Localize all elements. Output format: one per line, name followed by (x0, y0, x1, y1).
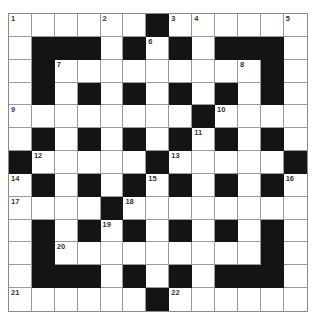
grid-cell[interactable]: 18 (123, 197, 146, 220)
grid-cell[interactable] (9, 83, 32, 106)
grid-cell[interactable] (146, 128, 169, 151)
grid-cell[interactable] (32, 105, 55, 128)
grid-cell[interactable]: 21 (9, 288, 32, 311)
grid-cell[interactable]: 13 (169, 151, 192, 174)
grid-cell[interactable]: 8 (238, 60, 261, 83)
grid-cell[interactable] (238, 83, 261, 106)
grid-cell[interactable] (146, 220, 169, 243)
grid-cell[interactable]: 17 (9, 197, 32, 220)
grid-cell[interactable] (215, 151, 238, 174)
grid-cell[interactable] (169, 242, 192, 265)
grid-cell[interactable] (123, 60, 146, 83)
grid-cell[interactable] (101, 151, 124, 174)
grid-cell[interactable] (101, 242, 124, 265)
grid-cell[interactable]: 19 (101, 220, 124, 243)
grid-cell[interactable]: 16 (284, 174, 307, 197)
grid-cell[interactable]: 1 (9, 14, 32, 37)
grid-cell[interactable] (9, 265, 32, 288)
grid-cell[interactable] (192, 197, 215, 220)
grid-cell[interactable] (55, 288, 78, 311)
grid-cell[interactable] (78, 288, 101, 311)
grid-cell[interactable] (101, 105, 124, 128)
grid-cell[interactable] (101, 60, 124, 83)
grid-cell[interactable] (123, 288, 146, 311)
grid-cell[interactable] (32, 288, 55, 311)
grid-cell[interactable] (55, 14, 78, 37)
grid-cell[interactable]: 4 (192, 14, 215, 37)
grid-cell[interactable] (284, 220, 307, 243)
grid-cell[interactable] (261, 14, 284, 37)
grid-cell[interactable] (123, 151, 146, 174)
grid-cell[interactable]: 14 (9, 174, 32, 197)
grid-cell[interactable] (169, 197, 192, 220)
grid-cell[interactable] (261, 288, 284, 311)
grid-cell[interactable]: 3 (169, 14, 192, 37)
grid-cell[interactable] (169, 105, 192, 128)
grid-cell[interactable] (192, 174, 215, 197)
grid-cell[interactable] (284, 128, 307, 151)
grid-cell[interactable] (101, 265, 124, 288)
grid-cell[interactable] (101, 174, 124, 197)
grid-cell[interactable] (32, 14, 55, 37)
grid-cell[interactable] (192, 220, 215, 243)
grid-cell[interactable] (192, 60, 215, 83)
grid-cell[interactable] (284, 265, 307, 288)
grid-cell[interactable] (261, 105, 284, 128)
grid-cell[interactable] (55, 197, 78, 220)
grid-cell[interactable] (55, 128, 78, 151)
grid-cell[interactable] (284, 83, 307, 106)
grid-cell[interactable] (169, 60, 192, 83)
grid-cell[interactable] (9, 242, 32, 265)
grid-cell[interactable] (55, 220, 78, 243)
grid-cell[interactable] (101, 37, 124, 60)
grid-cell[interactable] (78, 14, 101, 37)
grid-cell[interactable] (146, 242, 169, 265)
grid-cell[interactable] (9, 37, 32, 60)
grid-cell[interactable] (146, 197, 169, 220)
grid-cell[interactable] (238, 151, 261, 174)
grid-cell[interactable] (9, 60, 32, 83)
grid-cell[interactable] (101, 128, 124, 151)
grid-cell[interactable] (261, 151, 284, 174)
grid-cell[interactable]: 6 (146, 37, 169, 60)
grid-cell[interactable] (238, 288, 261, 311)
grid-cell[interactable] (55, 83, 78, 106)
grid-cell[interactable] (78, 197, 101, 220)
grid-cell[interactable] (123, 242, 146, 265)
grid-cell[interactable] (215, 14, 238, 37)
grid-cell[interactable] (146, 83, 169, 106)
grid-cell[interactable] (238, 242, 261, 265)
grid-cell[interactable] (284, 242, 307, 265)
grid-cell[interactable] (192, 37, 215, 60)
grid-cell[interactable] (78, 105, 101, 128)
grid-cell[interactable] (101, 288, 124, 311)
grid-cell[interactable] (123, 14, 146, 37)
grid-cell[interactable] (261, 197, 284, 220)
grid-cell[interactable]: 12 (32, 151, 55, 174)
grid-cell[interactable] (284, 288, 307, 311)
grid-cell[interactable] (238, 220, 261, 243)
grid-cell[interactable] (238, 105, 261, 128)
grid-cell[interactable]: 20 (55, 242, 78, 265)
grid-cell[interactable]: 7 (55, 60, 78, 83)
grid-cell[interactable] (9, 220, 32, 243)
grid-cell[interactable] (238, 197, 261, 220)
grid-cell[interactable] (101, 83, 124, 106)
grid-cell[interactable] (146, 60, 169, 83)
grid-cell[interactable] (215, 288, 238, 311)
grid-cell[interactable]: 10 (215, 105, 238, 128)
grid-cell[interactable] (32, 197, 55, 220)
grid-cell[interactable]: 2 (101, 14, 124, 37)
grid-cell[interactable] (238, 174, 261, 197)
grid-cell[interactable] (238, 14, 261, 37)
grid-cell[interactable] (78, 60, 101, 83)
grid-cell[interactable] (192, 265, 215, 288)
grid-cell[interactable] (284, 105, 307, 128)
grid-cell[interactable] (192, 151, 215, 174)
grid-cell[interactable]: 5 (284, 14, 307, 37)
grid-cell[interactable] (284, 197, 307, 220)
grid-cell[interactable] (215, 242, 238, 265)
grid-cell[interactable] (55, 174, 78, 197)
grid-cell[interactable] (284, 60, 307, 83)
grid-cell[interactable] (123, 105, 146, 128)
